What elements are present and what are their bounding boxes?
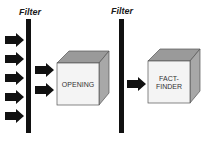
filter-label-2: Filter xyxy=(111,6,133,16)
stage-label-line: FINDER xyxy=(148,83,190,91)
opening-cube xyxy=(55,49,111,107)
stage-label-line: FACT- xyxy=(148,75,190,83)
arrow-icon xyxy=(35,83,55,97)
arrow-icon xyxy=(5,90,25,104)
stage-label-opening: OPENING xyxy=(57,81,99,89)
arrow-icon xyxy=(5,109,25,123)
arrow-icon xyxy=(5,33,25,47)
stage-label-fact-finder: FACT- FINDER xyxy=(148,75,190,91)
filter-bar-1 xyxy=(26,19,31,133)
arrow-icon xyxy=(5,71,25,85)
filter-bar-2 xyxy=(119,19,124,133)
filter-label-1: Filter xyxy=(19,7,41,17)
arrow-icon xyxy=(5,52,25,66)
arrow-icon xyxy=(127,77,147,91)
arrow-icon xyxy=(35,63,55,77)
